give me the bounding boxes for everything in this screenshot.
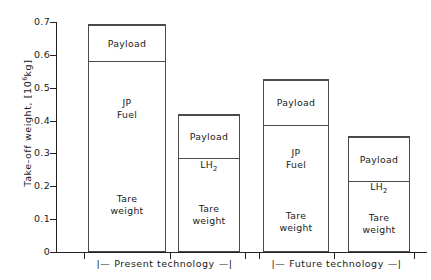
bar-1-segment-tare-weight: Tare weight <box>89 156 165 253</box>
group-bracket-left: |— <box>97 258 111 269</box>
y-axis-tick-mark <box>50 22 57 23</box>
bar-2: Tare weightLH2Payload <box>178 114 240 252</box>
segment-label: Payload <box>190 131 228 143</box>
bar-4-segment-payload: Payload <box>349 137 409 181</box>
y-axis-tick-mark <box>50 186 57 187</box>
y-axis-tick-label: 0.1 <box>6 213 50 224</box>
y-axis-tick-label: 0.4 <box>6 115 50 126</box>
y-axis-tick-mark <box>50 153 57 154</box>
y-axis-tick-mark <box>50 88 57 89</box>
x-axis-tick-mark <box>414 253 415 259</box>
segment-label: Payload <box>108 38 146 50</box>
y-axis-tick-mark <box>50 55 57 56</box>
bar-4-segment-lh2: LH2 <box>349 181 409 195</box>
y-axis-tick-label: 0.2 <box>6 180 50 191</box>
y-axis-tick-mark <box>50 121 57 122</box>
y-axis-tick-label: 0.3 <box>6 147 50 158</box>
segment-label: Tare weight <box>279 210 312 234</box>
segment-label: LH2 <box>370 181 387 197</box>
stacked-bar-chart: Take-off weight, [106kg] 00.10.20.30.40.… <box>0 0 431 280</box>
group-caption-present-technology: |—Present technology—| <box>84 258 245 269</box>
bar-2-segment-lh2: LH2 <box>179 158 239 176</box>
bar-2-segment-tare-weight: Tare weight <box>179 176 239 253</box>
bar-4: Tare weightLH2Payload <box>348 136 410 252</box>
group-caption-future-technology: |—Future technology—| <box>259 258 414 269</box>
bar-3-segment-jp-fuel: JP Fuel <box>264 125 328 191</box>
group-bracket-right: —| <box>388 258 402 269</box>
y-axis-tick-mark <box>50 219 57 220</box>
group-caption-label: Present technology <box>110 258 218 269</box>
group-bracket-left: |— <box>272 258 286 269</box>
bar-3-segment-payload: Payload <box>264 80 328 126</box>
bar-3-segment-tare-weight: Tare weight <box>264 191 328 253</box>
y-axis-title-exponent: 6 <box>21 77 29 81</box>
y-axis-title-text: Take-off weight, [10 <box>22 81 33 187</box>
bar-1-segment-payload: Payload <box>89 25 165 62</box>
segment-label: Payload <box>277 97 315 109</box>
segment-label: JP Fuel <box>286 147 306 171</box>
group-bracket-right: —| <box>219 258 233 269</box>
segment-label: Tare weight <box>110 193 143 217</box>
bar-1-segment-jp-fuel: JP Fuel <box>89 61 165 156</box>
segment-label: LH2 <box>200 159 217 175</box>
y-axis-tick-label: 0.6 <box>6 49 50 60</box>
y-axis-tick-label: 0.7 <box>6 16 50 27</box>
x-axis-tick-mark <box>245 253 246 259</box>
bar-4-segment-tare-weight: Tare weight <box>349 195 409 253</box>
group-caption-label: Future technology <box>285 258 388 269</box>
y-axis-tick-label: 0.5 <box>6 82 50 93</box>
segment-label: Tare weight <box>192 203 225 227</box>
bar-3: Tare weightJP FuelPayload <box>263 79 329 252</box>
bar-1: Tare weightJP FuelPayload <box>88 24 166 252</box>
segment-label: JP Fuel <box>117 97 137 121</box>
segment-label: Payload <box>360 154 398 166</box>
segment-label: Tare weight <box>362 212 395 236</box>
y-axis-title-tail: kg] <box>22 59 33 76</box>
bar-2-segment-payload: Payload <box>179 115 239 158</box>
y-axis-tick-label: 0 <box>6 246 50 257</box>
